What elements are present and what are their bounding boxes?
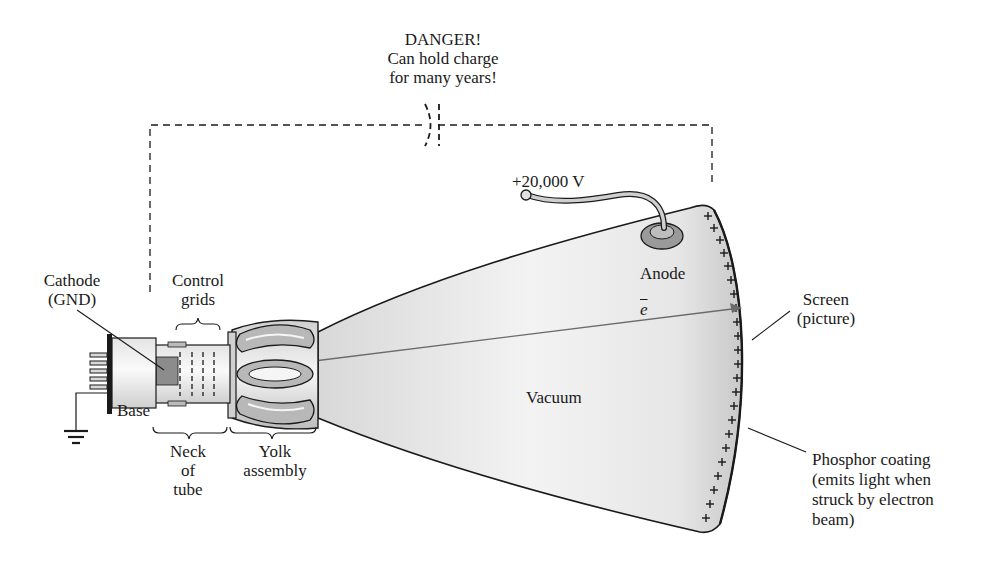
base-label: Base — [117, 401, 150, 420]
danger-line-3: for many years! — [378, 68, 508, 87]
control-grids-label: Control grids — [160, 271, 236, 309]
cathode-block — [156, 357, 178, 385]
neck-of-tube-label: Neck of tube — [160, 442, 216, 499]
phosphor-leader — [748, 428, 806, 452]
screen-label: Screen (picture) — [788, 290, 864, 328]
cathode-label-line-2: (GND) — [30, 290, 114, 309]
cathode-label: Cathode (GND) — [30, 271, 114, 309]
phosphor-label-line-4: beam) — [812, 510, 934, 530]
vacuum-label: Vacuum — [526, 388, 582, 407]
phosphor-label-line-3: struck by electron — [812, 490, 934, 510]
screen-label-line-1: Screen — [788, 290, 864, 309]
electron-symbol: e — [640, 300, 648, 319]
cathode-label-line-1: Cathode — [30, 271, 114, 290]
danger-line-1: DANGER! — [378, 30, 508, 49]
neck-label-line-1: Neck — [160, 442, 216, 461]
control-grids-brace — [176, 318, 220, 330]
electron-label: e — [640, 300, 648, 319]
voltage-label: +20,000 V — [512, 172, 585, 191]
capacitor-icon — [425, 104, 439, 146]
screen-label-line-2: (picture) — [788, 309, 864, 328]
phosphor-label-line-2: (emits light when — [812, 470, 934, 490]
voltage-terminal-icon — [521, 190, 531, 200]
control-grids-label-line-2: grids — [160, 290, 236, 309]
phosphor-coating-label: Phosphor coating (emits light when struc… — [812, 450, 934, 530]
danger-warning: DANGER! Can hold charge for many years! — [378, 30, 508, 87]
ground-icon — [64, 431, 88, 443]
control-grids-label-line-1: Control — [160, 271, 236, 290]
tube-neck — [150, 342, 230, 406]
neck-label-line-3: tube — [160, 480, 216, 499]
danger-line-2: Can hold charge — [378, 49, 508, 68]
yolk-assembly — [228, 320, 318, 429]
crt-bulb — [318, 205, 742, 532]
base-pins — [90, 353, 107, 389]
neck-label-line-2: of — [160, 461, 216, 480]
neck-brace — [153, 427, 227, 439]
yolk-assembly-label: Yolk assembly — [230, 442, 320, 480]
phosphor-label-line-1: Phosphor coating — [812, 450, 934, 470]
yolk-label-line-2: assembly — [230, 461, 320, 480]
screen-leader — [752, 311, 790, 340]
anode-label: Anode — [640, 264, 685, 283]
ground-wire — [76, 393, 107, 430]
yolk-label-line-1: Yolk — [230, 442, 320, 461]
